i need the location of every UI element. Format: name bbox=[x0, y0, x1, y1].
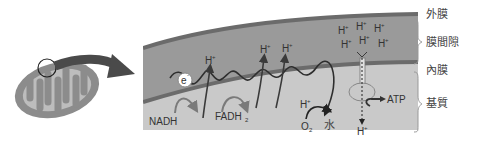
oxygen-label: O bbox=[301, 121, 309, 132]
svg-text:+: + bbox=[348, 38, 352, 44]
inner-membrane-label: 內膜 bbox=[426, 64, 448, 77]
diagram-canvas: e - H+ H+ H+ H+ H+ H+ H+ H+ H+ H + bbox=[0, 0, 484, 145]
electron-charge: - bbox=[187, 72, 189, 78]
svg-text:+: + bbox=[289, 42, 293, 48]
svg-text:+: + bbox=[381, 22, 385, 28]
svg-text:+: + bbox=[212, 54, 216, 60]
svg-text:+: + bbox=[363, 20, 367, 26]
matrix-label: 基質 bbox=[426, 96, 448, 110]
atp-label: ATP bbox=[387, 94, 406, 105]
svg-text:+: + bbox=[267, 43, 271, 49]
svg-text:+: + bbox=[364, 125, 368, 131]
intermembrane-space-label: 膜間隙 bbox=[426, 35, 459, 49]
svg-text:+: + bbox=[307, 98, 311, 104]
svg-text:FADH: FADH bbox=[215, 111, 242, 122]
svg-text:+: + bbox=[366, 34, 370, 40]
svg-text:+: + bbox=[345, 24, 349, 30]
svg-text:+: + bbox=[385, 37, 389, 43]
nadh-label: NADH bbox=[149, 116, 177, 127]
outer-membrane-label: 外膜 bbox=[426, 8, 448, 21]
water-label: 水 bbox=[324, 119, 335, 132]
